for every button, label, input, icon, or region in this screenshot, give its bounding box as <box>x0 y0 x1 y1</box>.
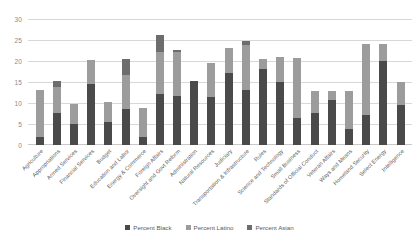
legend-item[interactable]: Percent Asian <box>247 224 293 231</box>
bar-stack[interactable] <box>362 44 370 145</box>
bar-slot <box>65 19 82 145</box>
bar-segment[interactable] <box>293 58 301 118</box>
y-tick-label: 20 <box>15 58 22 65</box>
bar-segment[interactable] <box>122 109 130 145</box>
bar-segment[interactable] <box>87 84 95 145</box>
bar-segment[interactable] <box>276 82 284 145</box>
y-tick-label: 30 <box>15 16 22 23</box>
bar-slot <box>203 19 220 145</box>
bar-segment[interactable] <box>139 108 147 137</box>
bar-segment[interactable] <box>122 59 130 75</box>
bar-stack[interactable] <box>379 44 387 145</box>
y-tick-label: 10 <box>15 100 22 107</box>
bar-slot <box>237 19 254 145</box>
bar-stack[interactable] <box>345 91 353 145</box>
bar-slot <box>169 19 186 145</box>
bar-segment[interactable] <box>328 100 336 145</box>
bar-segment[interactable] <box>311 91 319 113</box>
bar-segment[interactable] <box>122 75 130 109</box>
bar-stack[interactable] <box>328 91 336 145</box>
bar-segment[interactable] <box>70 104 78 124</box>
bar-segment[interactable] <box>156 52 164 94</box>
chart-legend: Percent BlackPercent LatinoPercent Asian <box>0 224 419 231</box>
x-label-slot: Small Business <box>289 146 306 218</box>
bar-segment[interactable] <box>139 137 147 145</box>
legend-swatch-icon <box>125 225 130 230</box>
bar-stack[interactable] <box>104 102 112 145</box>
bar-segment[interactable] <box>190 81 198 145</box>
bar-stack[interactable] <box>225 48 233 145</box>
bar-segment[interactable] <box>379 44 387 61</box>
bar-stack[interactable] <box>207 63 215 145</box>
bar-stack[interactable] <box>276 57 284 145</box>
x-label-slot: Homeland Security <box>358 146 375 218</box>
bar-segment[interactable] <box>207 63 215 97</box>
bar-series-container <box>28 19 412 145</box>
bar-segment[interactable] <box>276 57 284 82</box>
bar-stack[interactable] <box>259 59 267 145</box>
bar-segment[interactable] <box>104 122 112 145</box>
bar-segment[interactable] <box>156 35 164 52</box>
bar-stack[interactable] <box>156 35 164 145</box>
y-tick-label: 25 <box>15 37 22 44</box>
bar-segment[interactable] <box>293 118 301 145</box>
bar-slot <box>254 19 271 145</box>
bar-stack[interactable] <box>242 41 250 145</box>
bar-segment[interactable] <box>362 115 370 145</box>
legend-swatch-icon <box>186 225 191 230</box>
bar-stack[interactable] <box>53 81 61 145</box>
bar-segment[interactable] <box>242 45 250 90</box>
bar-segment[interactable] <box>225 73 233 145</box>
bar-segment[interactable] <box>173 52 181 96</box>
bar-segment[interactable] <box>173 96 181 145</box>
bar-segment[interactable] <box>397 105 405 145</box>
legend-swatch-icon <box>247 225 252 230</box>
bar-slot <box>100 19 117 145</box>
bar-segment[interactable] <box>242 90 250 145</box>
bar-segment[interactable] <box>397 82 405 105</box>
bar-stack[interactable] <box>173 50 181 145</box>
bar-segment[interactable] <box>53 113 61 145</box>
bar-segment[interactable] <box>70 124 78 145</box>
bar-stack[interactable] <box>293 58 301 145</box>
x-label-slot: Ways and Means <box>340 146 357 218</box>
bar-stack[interactable] <box>139 108 147 145</box>
x-label-slot: Rules <box>254 146 271 218</box>
bar-segment[interactable] <box>36 137 44 145</box>
bar-slot <box>151 19 168 145</box>
bar-stack[interactable] <box>311 91 319 145</box>
bar-segment[interactable] <box>207 97 215 145</box>
bar-stack[interactable] <box>190 81 198 145</box>
x-label-slot: Judiciary <box>220 146 237 218</box>
bar-stack[interactable] <box>397 82 405 145</box>
bar-segment[interactable] <box>87 60 95 84</box>
bar-segment[interactable] <box>311 113 319 145</box>
x-tick-label: Rules <box>253 148 268 163</box>
bar-segment[interactable] <box>379 61 387 145</box>
bar-segment[interactable] <box>36 90 44 136</box>
y-tick-label: 15 <box>15 79 22 86</box>
bar-segment[interactable] <box>345 91 353 129</box>
bar-slot <box>340 19 357 145</box>
y-axis: 051015202530 <box>0 19 26 145</box>
bar-slot <box>272 19 289 145</box>
x-label-slot: Foreign Affairs <box>151 146 168 218</box>
bar-stack[interactable] <box>87 60 95 145</box>
bar-stack[interactable] <box>36 90 44 145</box>
bar-segment[interactable] <box>53 81 61 88</box>
bar-slot <box>306 19 323 145</box>
bar-stack[interactable] <box>122 59 130 145</box>
bar-segment[interactable] <box>259 59 267 70</box>
legend-item[interactable]: Percent Black <box>125 224 171 231</box>
bar-stack[interactable] <box>70 104 78 145</box>
bar-segment[interactable] <box>259 69 267 145</box>
bar-segment[interactable] <box>345 129 353 145</box>
bar-segment[interactable] <box>225 48 233 73</box>
legend-label: Percent Latino <box>194 224 234 231</box>
bar-segment[interactable] <box>362 44 370 115</box>
bar-segment[interactable] <box>328 91 336 100</box>
bar-segment[interactable] <box>104 102 112 122</box>
bar-segment[interactable] <box>53 87 61 112</box>
legend-item[interactable]: Percent Latino <box>186 224 234 231</box>
bar-segment[interactable] <box>156 94 164 145</box>
